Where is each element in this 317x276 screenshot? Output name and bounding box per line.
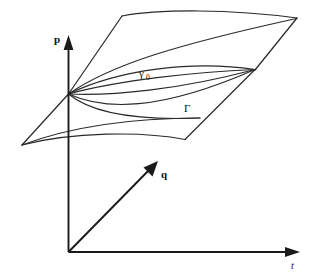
q-axis-label: q [161,168,168,180]
top-sheet-upper-edge [122,11,297,18]
q-axis-line [69,169,151,252]
gamma-curve [69,70,256,95]
t-axis-label: t [291,260,294,271]
p-axis-label: p [54,33,60,45]
gamma-zero-subscript: 0 [146,73,150,82]
fan-curve-upper [69,70,256,95]
top-sheet-right-edge [255,18,297,70]
lower-sheet-right-edge [185,70,255,140]
gamma-zero-base: γ [138,67,144,79]
lower-sheet-inner-curve [22,118,200,145]
p-axis-group [64,35,74,252]
gamma-capital-label: Γ [184,102,190,114]
top-sheet-group [69,11,298,94]
curve-family-group [69,66,256,105]
figure-canvas: p q t γ 0 Γ [0,0,317,276]
diagram-svg: p q t γ 0 Γ [0,0,317,276]
up-arrow-icon [64,35,74,50]
gamma-zero-curve [69,66,256,94]
right-arrow-icon [285,247,300,257]
q-axis-group [69,161,159,252]
trough-curve [69,94,201,119]
t-axis-group [69,247,301,257]
lower-sheet-group [22,70,255,145]
lower-sheet-bottom-curve [22,134,185,145]
top-sheet-left-edge [69,16,123,94]
ridge-curve-outer [69,19,297,95]
